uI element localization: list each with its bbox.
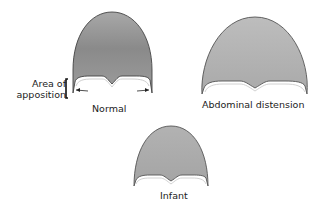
abdominal-distension-label: Abdominal distension — [202, 99, 304, 110]
annotation-line-1: Area of — [4, 78, 66, 89]
area-of-apposition-label: Area of apposition — [4, 78, 66, 100]
infant-diaphragm-dome — [134, 126, 208, 186]
apposition-bracket — [66, 79, 68, 98]
infant-label: Infant — [160, 190, 188, 201]
abdominal-diaphragm-dome — [202, 17, 307, 94]
normal-diaphragm-dome — [73, 12, 152, 93]
normal-label: Normal — [92, 103, 126, 114]
annotation-line-2: apposition — [4, 89, 66, 100]
